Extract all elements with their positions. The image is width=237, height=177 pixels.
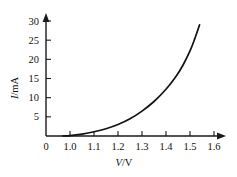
y-axis-label-text: I/mA — [9, 77, 20, 101]
x-axis-arrowhead — [217, 133, 226, 140]
y-axis-label: I/mA — [9, 77, 20, 101]
y-axis-tick-label: 10 — [29, 92, 40, 103]
x-axis-tick-label: 1.1 — [87, 141, 100, 152]
y-axis-tick-label: 30 — [29, 16, 40, 27]
x-axis-tick-labels: 01.01.11.21.31.41.51.6 — [43, 141, 220, 152]
y-axis-tick-label: 15 — [29, 73, 40, 84]
data-series-curve — [63, 25, 200, 136]
x-axis-label: V/V — [116, 157, 133, 168]
x-axis-tick-label: 1.4 — [159, 141, 173, 152]
chart-figure: 51015202530 01.01.11.21.31.41.51.6 I/mA … — [0, 0, 237, 177]
y-axis-ticks — [46, 21, 51, 117]
x-axis-label-text: V/V — [116, 157, 133, 168]
x-axis-tick-label: 0 — [43, 141, 48, 152]
y-axis-tick-label: 25 — [29, 35, 40, 46]
x-axis-tick-label: 1.0 — [63, 141, 76, 152]
x-axis-tick-label: 1.5 — [183, 141, 196, 152]
x-axis-group: 01.01.11.21.31.41.51.6 — [43, 131, 226, 152]
y-axis-tick-label: 20 — [29, 54, 40, 65]
y-axis-tick-label: 5 — [34, 111, 39, 122]
x-axis-tick-label: 1.2 — [111, 141, 124, 152]
x-axis-tick-label: 1.6 — [207, 141, 220, 152]
y-axis-group: 51015202530 — [29, 13, 52, 136]
chart-svg: 51015202530 01.01.11.21.31.41.51.6 I/mA … — [0, 0, 237, 177]
y-axis-tick-labels: 51015202530 — [29, 16, 40, 123]
x-axis-tick-label: 1.3 — [135, 141, 148, 152]
